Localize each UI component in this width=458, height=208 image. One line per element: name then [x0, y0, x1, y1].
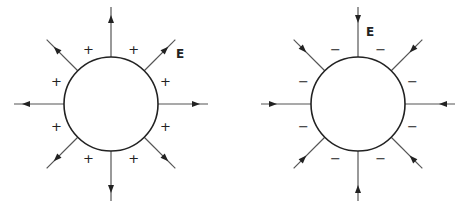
arrowhead-icon — [269, 101, 277, 107]
conductor-sphere — [311, 57, 405, 151]
field-line — [294, 137, 325, 168]
arrowhead-icon — [108, 185, 114, 193]
arrowhead-icon — [22, 101, 30, 107]
electric-field-diagram: ++++++++E−−−−−−−−E — [0, 0, 458, 208]
positive-charge-sphere: ++++++++E — [14, 7, 208, 201]
field-line — [47, 40, 78, 71]
minus-charge: − — [407, 119, 418, 134]
plus-charge: + — [160, 119, 171, 134]
field-line — [144, 40, 175, 71]
arrowhead-icon — [355, 185, 361, 193]
arrowhead-icon — [192, 101, 200, 107]
plus-charge: + — [83, 151, 94, 166]
minus-charge: − — [375, 151, 386, 166]
plus-charge: + — [128, 42, 139, 57]
minus-charge: − — [298, 119, 309, 134]
minus-charge: − — [330, 151, 341, 166]
field-line — [144, 137, 175, 168]
minus-charge: − — [407, 74, 418, 89]
plus-charge: + — [128, 151, 139, 166]
arrowhead-icon — [108, 15, 114, 23]
minus-charge: − — [375, 42, 386, 57]
arrowhead-icon — [355, 15, 361, 23]
negative-charge-sphere: −−−−−−−−E — [261, 7, 455, 201]
minus-charge: − — [330, 42, 341, 57]
field-label: E — [176, 47, 184, 61]
plus-charge: + — [51, 119, 62, 134]
conductor-sphere — [64, 57, 158, 151]
field-line — [47, 137, 78, 168]
field-line — [391, 40, 422, 71]
minus-charge: − — [298, 74, 309, 89]
plus-charge: + — [160, 74, 171, 89]
arrowhead-icon — [439, 101, 447, 107]
plus-charge: + — [51, 74, 62, 89]
field-line — [294, 40, 325, 71]
field-line — [391, 137, 422, 168]
plus-charge: + — [83, 42, 94, 57]
field-label: E — [366, 25, 374, 39]
